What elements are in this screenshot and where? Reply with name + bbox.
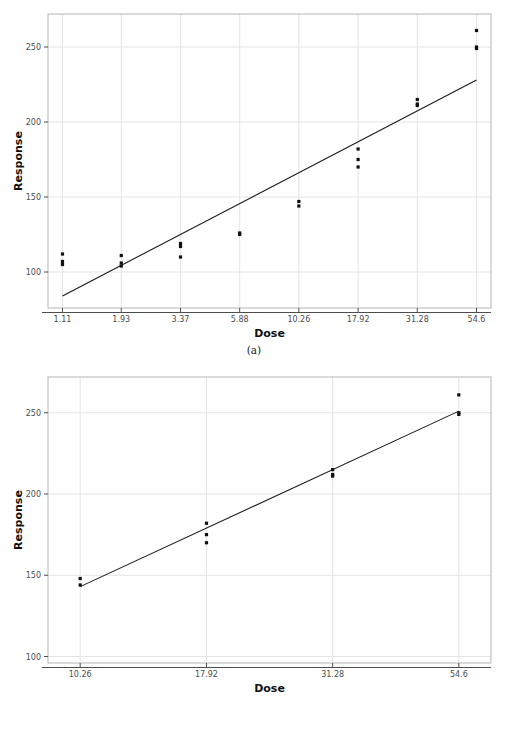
svg-text:100: 100	[26, 653, 41, 662]
svg-text:1.93: 1.93	[112, 315, 130, 324]
svg-text:17.92: 17.92	[347, 315, 370, 324]
figure-panel-b: 10015020025010.2617.9231.2854.6DoseRespo…	[0, 370, 508, 731]
panel-caption-a: (a)	[0, 344, 508, 356]
svg-text:1.11: 1.11	[54, 315, 72, 324]
svg-text:Dose: Dose	[254, 327, 285, 340]
svg-text:250: 250	[26, 43, 41, 52]
svg-text:Response: Response	[12, 490, 25, 550]
svg-text:Response: Response	[12, 131, 25, 191]
plot-canvas-b: 10015020025010.2617.9231.2854.6DoseRespo…	[0, 370, 508, 700]
figure-panel-a: 1001502002501.111.933.375.8810.2617.9231…	[0, 0, 508, 370]
svg-text:17.92: 17.92	[195, 670, 218, 679]
svg-text:10.26: 10.26	[69, 670, 92, 679]
svg-text:250: 250	[26, 409, 41, 418]
svg-text:150: 150	[26, 571, 41, 580]
scatter-plot-a: 1001502002501.111.933.375.8810.2617.9231…	[0, 0, 508, 340]
svg-text:Dose: Dose	[254, 682, 285, 695]
svg-text:5.88: 5.88	[231, 315, 249, 324]
svg-text:200: 200	[26, 490, 41, 499]
scatter-plot-b: 10015020025010.2617.9231.2854.6DoseRespo…	[0, 370, 508, 700]
svg-text:100: 100	[26, 268, 41, 277]
svg-text:150: 150	[26, 193, 41, 202]
svg-text:10.26: 10.26	[287, 315, 310, 324]
svg-text:31.28: 31.28	[321, 670, 344, 679]
plot-canvas-a: 1001502002501.111.933.375.8810.2617.9231…	[0, 0, 508, 340]
svg-text:54.6: 54.6	[450, 670, 468, 679]
svg-text:3.37: 3.37	[172, 315, 190, 324]
svg-text:31.28: 31.28	[406, 315, 429, 324]
svg-text:200: 200	[26, 118, 41, 127]
svg-text:54.6: 54.6	[468, 315, 486, 324]
